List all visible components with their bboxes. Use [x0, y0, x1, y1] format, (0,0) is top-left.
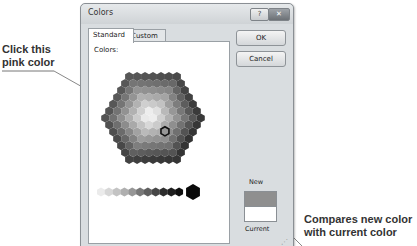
callout-click-pink: Click this pink color: [2, 43, 82, 69]
ok-button[interactable]: OK: [236, 30, 286, 46]
close-button[interactable]: ✕: [268, 8, 290, 21]
current-color-label: Current: [245, 225, 269, 233]
gray-cell[interactable]: [175, 187, 183, 196]
question-icon: ?: [258, 10, 262, 18]
callout-line-1: Compares new color: [304, 213, 417, 226]
gray-cell[interactable]: [97, 187, 105, 196]
gray-cell[interactable]: [167, 187, 175, 196]
gray-cell[interactable]: [105, 187, 113, 196]
resize-grip-icon[interactable]: ⋰: [281, 238, 288, 246]
close-icon: ✕: [276, 10, 282, 18]
dialog-title: Colors: [88, 8, 113, 17]
gray-cell[interactable]: [152, 187, 160, 196]
standard-panel: Colors:: [88, 41, 230, 244]
current-color-swatch: [244, 206, 277, 222]
selected-pink-cell[interactable]: [161, 127, 169, 136]
gray-cell[interactable]: [113, 187, 121, 196]
callout-line-2: with current color: [304, 226, 417, 239]
tab-standard[interactable]: Standard: [88, 28, 134, 43]
colors-dialog: Colors ? ✕ Standard Custom Colors: OK Ca…: [80, 3, 294, 246]
title-bar[interactable]: Colors ? ✕: [81, 4, 293, 24]
black-cell[interactable]: [186, 184, 200, 200]
help-button[interactable]: ?: [250, 8, 269, 21]
color-honeycomb[interactable]: [89, 42, 229, 242]
gray-cell[interactable]: [136, 187, 144, 196]
cancel-button[interactable]: Cancel: [236, 51, 286, 67]
gray-cell[interactable]: [144, 187, 152, 196]
gray-cell[interactable]: [159, 187, 167, 196]
gray-cell[interactable]: [128, 187, 136, 196]
callout-line-2: pink color: [2, 56, 82, 69]
callout-compare-colors: Compares new color with current color: [304, 213, 417, 239]
new-color-label: New: [249, 178, 263, 186]
gray-cell[interactable]: [120, 187, 128, 196]
callout-line-1: Click this: [2, 43, 82, 56]
new-color-swatch: [244, 191, 277, 206]
